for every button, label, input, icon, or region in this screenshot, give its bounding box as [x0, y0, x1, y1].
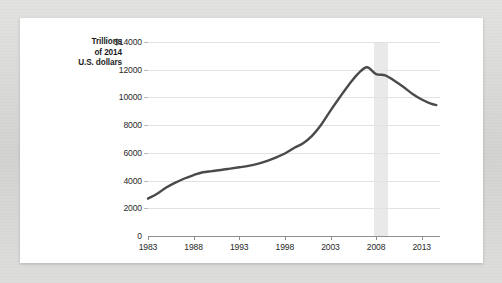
x-axis-tick-mark	[376, 236, 377, 240]
x-axis-tick-mark	[194, 236, 195, 240]
y-axis-tick-label: 8000	[123, 120, 142, 130]
x-axis-tick-mark	[422, 236, 423, 240]
y-axis-tick-label: 6000	[123, 148, 142, 158]
series-line-household-debt	[148, 42, 440, 236]
x-axis-line	[148, 236, 440, 237]
y-axis-zero-label: 0	[137, 231, 142, 241]
x-axis-tick-mark	[285, 236, 286, 240]
y-axis-tick-label: 10000	[119, 92, 142, 102]
x-axis-tick-mark	[148, 236, 149, 240]
x-axis-tick-label: 2003	[321, 242, 340, 252]
x-axis-tick-label: 1998	[276, 242, 295, 252]
plot-area: 20004000600080001000012000$14000 0 19831…	[148, 42, 440, 236]
x-axis-tick-mark	[239, 236, 240, 240]
x-axis-tick-label: 2013	[412, 242, 431, 252]
x-axis-tick-label: 1983	[139, 242, 158, 252]
x-axis-tick-label: 2008	[367, 242, 386, 252]
y-axis-caption: Trillions of 2014 U.S. dollars	[56, 37, 122, 69]
x-axis-tick-label: 1993	[230, 242, 249, 252]
figure-card: Trillions of 2014 U.S. dollars 200040006…	[20, 18, 483, 263]
x-axis-tick-label: 1988	[184, 242, 203, 252]
y-axis-tick-label: $14000	[114, 37, 142, 47]
line-chart: Trillions of 2014 U.S. dollars 200040006…	[20, 18, 483, 263]
y-axis-tick-label: 12000	[119, 65, 142, 75]
y-axis-tick-label: 4000	[123, 176, 142, 186]
series-path	[148, 67, 436, 198]
y-axis-tick-label: 2000	[123, 203, 142, 213]
x-axis-tick-mark	[331, 236, 332, 240]
